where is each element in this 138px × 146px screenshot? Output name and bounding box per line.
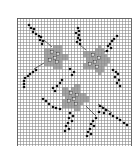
- stitch-dot: [39, 39, 42, 42]
- stitch-dot: [116, 35, 119, 38]
- flower-center-dot: [56, 61, 57, 62]
- stitch-dot: [110, 47, 113, 50]
- stitch-dot: [107, 45, 110, 48]
- stitch-dot: [41, 43, 44, 46]
- stitch-dot: [123, 122, 126, 125]
- stitch-dot: [24, 77, 27, 80]
- stitch-dot: [30, 27, 33, 30]
- flower-center-dot: [98, 57, 99, 58]
- stitch-dot: [45, 100, 48, 103]
- stitch-dot: [40, 36, 43, 39]
- stitch-dot: [71, 120, 74, 123]
- stitch-dot: [98, 111, 101, 114]
- stitch-dot: [116, 117, 119, 120]
- stitch-dot: [32, 71, 35, 74]
- stitch-dot: [35, 69, 38, 72]
- stitch-dot: [73, 71, 76, 74]
- stitch-dot: [28, 24, 31, 27]
- stitch-dot: [68, 128, 71, 131]
- stitch-dot: [90, 123, 93, 126]
- flower-center-dot: [89, 63, 90, 64]
- stitch-dot: [48, 103, 51, 106]
- stitch-dot: [109, 113, 112, 116]
- cross-stitch-chart: [0, 0, 138, 146]
- stitch-dot: [99, 105, 102, 108]
- stitch-dot: [71, 74, 74, 77]
- stitch-dot: [119, 119, 122, 122]
- stitch-dot: [32, 31, 35, 34]
- stitch-dot: [29, 73, 32, 76]
- stitch-dot: [119, 85, 122, 88]
- stitch-dot: [118, 79, 121, 82]
- stitch-dot: [33, 28, 36, 31]
- stitch-dot: [87, 131, 90, 134]
- flower-center-dot: [51, 51, 52, 52]
- stitch-dot: [52, 87, 55, 90]
- stitch-dot: [92, 120, 95, 123]
- stitch-dot: [95, 117, 98, 120]
- stitch-dot: [117, 73, 120, 76]
- stitch-dot: [112, 115, 115, 118]
- stitch-dot: [54, 90, 57, 93]
- stitch-dot: [23, 83, 26, 86]
- stitch-dot: [35, 33, 38, 36]
- stitch-dot: [76, 41, 79, 44]
- flower-center-dot: [76, 94, 77, 95]
- stitch-dot: [75, 32, 78, 35]
- stitch-dot: [42, 40, 45, 43]
- flower-center-dot: [94, 61, 95, 62]
- stitch-dot: [23, 80, 26, 83]
- stitch-dot: [112, 69, 115, 72]
- stitch-dot: [90, 133, 93, 136]
- stitch-dot: [105, 109, 108, 112]
- flower-center-dot: [49, 59, 50, 60]
- stitch-dot: [116, 82, 119, 85]
- stitch-dot: [68, 117, 71, 120]
- stitch-dot: [79, 39, 82, 42]
- stitch-dot: [106, 50, 109, 53]
- stitch-dot: [59, 108, 62, 111]
- stitch-dot: [64, 130, 67, 133]
- stitch-dot: [69, 68, 72, 71]
- stitch-dot: [113, 38, 116, 41]
- flower-center-dot: [92, 54, 93, 55]
- stitch-dot: [109, 43, 112, 46]
- stitch-dot: [23, 86, 26, 89]
- stitch-dot: [115, 71, 118, 74]
- stitch-dot: [27, 75, 30, 78]
- flower-center-dot: [96, 66, 97, 67]
- stitch-dot: [77, 37, 80, 40]
- stitch-dot: [93, 125, 96, 128]
- stitch-dot: [61, 79, 64, 82]
- stitch-dot: [78, 34, 81, 37]
- flower-center-dot: [70, 92, 71, 93]
- stitch-dot: [103, 112, 106, 115]
- flower-center-dot: [75, 103, 76, 104]
- stitch-dot: [72, 115, 75, 118]
- stitch-dot: [89, 128, 92, 131]
- stitch-dot: [55, 107, 58, 110]
- stitch-dot: [79, 43, 82, 46]
- stitch-dot: [56, 85, 59, 88]
- stitch-dot: [126, 124, 129, 127]
- stitch-dot: [59, 82, 62, 85]
- stitch-dot: [111, 40, 114, 43]
- stitch-dot: [78, 30, 81, 33]
- flower-center-dot: [68, 100, 69, 101]
- stitch-dot: [42, 98, 45, 101]
- stitch-dot: [69, 112, 72, 115]
- stitch-dot: [114, 76, 117, 79]
- stitch-dot: [52, 106, 55, 109]
- stitch-dot: [67, 122, 70, 125]
- flower-center-dot: [54, 57, 55, 58]
- stitch-dot: [77, 27, 80, 30]
- stitch-dot: [65, 125, 68, 128]
- flower-center-dot: [57, 53, 58, 54]
- flower-center-dot: [73, 98, 74, 99]
- stitch-dot: [86, 135, 89, 138]
- stitch-dot: [102, 107, 105, 110]
